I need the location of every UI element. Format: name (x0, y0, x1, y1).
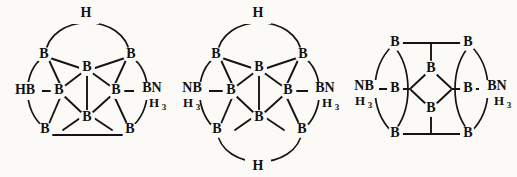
bond-topcenter-midleft (234, 72, 255, 88)
bond-tr-midright (115, 58, 127, 84)
top-bridge-arc (217, 23, 302, 55)
atom-label-boron: B (254, 109, 263, 124)
bond-midleft-bl (220, 98, 232, 126)
atom-label-boron: B (226, 82, 235, 97)
atom-label-boron: B (463, 125, 472, 140)
atom-label-boron: B (111, 82, 120, 97)
chemical-structures-figure: B B B B B B B B H HB BN H 3 (0, 0, 517, 177)
right-terminal-sub-label: H (494, 93, 504, 108)
atom-label-boron: B (298, 46, 307, 61)
atom-label-boron: B (390, 125, 399, 140)
bond-diamond-left-centerbottom (411, 90, 427, 105)
atom-label-boron: B (426, 100, 435, 115)
atom-label-boron: B (82, 109, 91, 124)
atom-label-boron: B (212, 121, 221, 136)
structure-2: B B B B B B B B H H NB H 3 BN H 3 (172, 0, 347, 177)
bond-midleft-bottomcenter (62, 94, 82, 113)
left-terminal-sub-label: H (183, 95, 193, 110)
right-terminal-sub-label: H (322, 95, 332, 110)
atom-label-boron: B (463, 80, 472, 95)
structure-1: B B B B B B B B H HB BN H 3 (0, 0, 175, 177)
bond-topcenter-midright (91, 72, 113, 88)
atom-label-boron: B (82, 59, 91, 74)
atom-label-boron: B (463, 34, 472, 49)
bond-centertop-diamond-left (411, 73, 427, 88)
bond-midleft-bottomcenter (234, 94, 254, 113)
left-terminal-label: NB (182, 80, 201, 95)
structure-3-canvas: B B B B B B B B NB H 3 BN H 3 (345, 0, 517, 177)
atom-label-boron: B (125, 121, 134, 136)
right-terminal-sub-index: 3 (162, 102, 167, 112)
atom-label-boron: B (254, 59, 263, 74)
bond-centertop-diamond-right (435, 73, 451, 88)
left-terminal-sub-label: H (355, 93, 365, 108)
right-terminal-label: BN (487, 78, 506, 93)
right-terminal-sub-index: 3 (335, 102, 340, 112)
left-terminal-label: HB (15, 82, 35, 97)
atom-label-boron: B (426, 60, 435, 75)
bridge-hydrogen-label: H (81, 5, 92, 20)
atom-label-boron: B (39, 46, 48, 61)
bridge-hydrogen-label: H (253, 158, 264, 173)
bond-midright-bottomcenter (92, 94, 113, 113)
bond-tl-midleft (48, 58, 60, 84)
atom-label-boron: B (54, 82, 63, 97)
bond-midright-bottomcenter (264, 94, 285, 113)
atom-label-boron: B (390, 80, 399, 95)
atom-label-boron: B (126, 46, 135, 61)
structure-1-canvas: B B B B B B B B H HB BN H 3 (0, 0, 175, 177)
right-terminal-sub-label: H (149, 95, 159, 110)
right-terminal-label: BN (142, 80, 161, 95)
atom-label-boron: B (211, 46, 220, 61)
top-bridge-arc (45, 23, 130, 55)
bond-midleft-bl (48, 98, 60, 126)
left-terminal-sub-index: 3 (196, 102, 201, 112)
right-terminal-sub-index: 3 (507, 100, 512, 110)
bond-topcenter-midleft (62, 72, 83, 88)
structure-3: B B B B B B B B NB H 3 BN H 3 (345, 0, 517, 177)
structure-2-canvas: B B B B B B B B H H NB H 3 BN H 3 (172, 0, 347, 177)
right-terminal-label: BN (315, 80, 334, 95)
bridge-hydrogen-label: H (253, 5, 264, 20)
bond-tl-midleft (220, 58, 232, 84)
left-terminal-label: NB (354, 78, 373, 93)
atom-label-boron: B (283, 82, 292, 97)
bond-topcenter-midright (263, 72, 285, 88)
bond-diamond-right-centerbottom (435, 90, 451, 105)
left-terminal-sub-index: 3 (368, 100, 373, 110)
bond-tr-midright (287, 58, 299, 84)
atom-label-boron: B (40, 121, 49, 136)
atom-label-boron: B (390, 34, 399, 49)
atom-label-boron: B (297, 121, 306, 136)
